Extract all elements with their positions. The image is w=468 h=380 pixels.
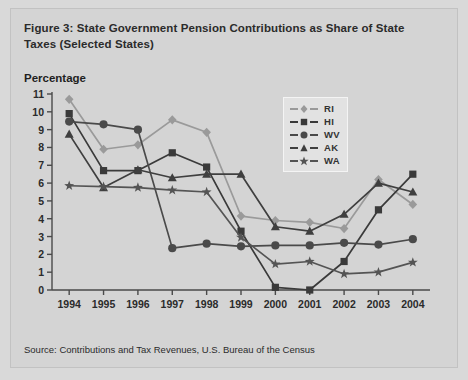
- data-point-square-icon: [203, 163, 210, 170]
- data-point-triangle-icon: [65, 129, 74, 137]
- data-point-circle-icon: [134, 126, 142, 134]
- x-tick-label: 2004: [401, 298, 425, 310]
- data-point-square-icon: [375, 206, 382, 213]
- legend-label-ri: RI: [319, 103, 334, 114]
- chart-legend: RI HI WV AK: [283, 97, 348, 172]
- data-point-star-icon: [64, 181, 74, 190]
- data-point-star-icon: [202, 187, 212, 196]
- legend-item-ak[interactable]: AK: [289, 141, 340, 154]
- y-tick-label: 8: [38, 141, 44, 153]
- series-ri: [65, 95, 417, 233]
- legend-symbol-triangle-icon: [289, 142, 319, 154]
- legend-item-wa[interactable]: WA: [289, 154, 340, 167]
- data-point-star-icon: [133, 182, 143, 191]
- series-line: [69, 99, 413, 228]
- data-point-square-icon: [66, 110, 73, 117]
- legend-item-ri[interactable]: RI: [289, 102, 340, 115]
- y-tick-label: 4: [38, 213, 44, 225]
- x-tick-label: 1995: [92, 298, 116, 310]
- data-point-star-icon: [167, 185, 177, 194]
- y-tick-label: 5: [38, 195, 44, 207]
- source-note: Source: Contributions and Tax Revenues, …: [24, 344, 315, 355]
- figure-container: Figure 3: State Government Pension Contr…: [0, 0, 468, 380]
- figure-title: Figure 3: State Government Pension Contr…: [24, 20, 424, 52]
- x-tick-label: 2003: [367, 298, 391, 310]
- data-point-circle-icon: [65, 118, 73, 126]
- y-axis-label: Percentage: [24, 72, 86, 84]
- data-point-square-icon: [306, 286, 313, 293]
- legend-symbol-star-icon: [289, 155, 319, 167]
- x-tick-label: 1994: [58, 298, 82, 310]
- line-chart-svg: 0123456789101119941995199619971998199920…: [24, 90, 436, 318]
- y-tick-label: 3: [38, 231, 44, 243]
- data-point-diamond-icon: [202, 128, 211, 137]
- data-point-square-icon: [100, 167, 107, 174]
- data-point-diamond-icon: [305, 218, 314, 227]
- data-point-circle-icon: [340, 239, 348, 247]
- data-point-square-icon: [340, 258, 347, 265]
- legend-symbol-square-icon: [289, 116, 319, 128]
- x-tick-label: 2002: [332, 298, 356, 310]
- data-point-star-icon: [305, 256, 315, 265]
- y-tick-label: 7: [38, 159, 44, 171]
- data-point-diamond-icon: [237, 211, 246, 220]
- x-tick-label: 1998: [195, 298, 219, 310]
- data-point-square-icon: [169, 149, 176, 156]
- y-tick-label: 11: [33, 90, 44, 100]
- legend-label-ak: AK: [319, 142, 338, 153]
- legend-label-wv: WV: [319, 129, 340, 140]
- y-tick-label: 0: [38, 284, 44, 296]
- data-point-star-icon: [374, 267, 384, 276]
- x-tick-label: 1999: [229, 298, 253, 310]
- x-tick-label: 1996: [126, 298, 150, 310]
- data-point-square-icon: [272, 284, 279, 291]
- data-point-circle-icon: [99, 120, 107, 128]
- x-tick-label: 2001: [298, 298, 322, 310]
- data-point-star-icon: [270, 259, 280, 268]
- data-point-star-icon: [408, 257, 418, 266]
- data-point-star-icon: [339, 269, 349, 278]
- data-point-circle-icon: [409, 235, 417, 243]
- data-point-circle-icon: [168, 244, 176, 252]
- legend-item-hi[interactable]: HI: [289, 115, 340, 128]
- x-tick-label: 1997: [161, 298, 185, 310]
- y-tick-label: 9: [38, 124, 44, 136]
- legend-item-wv[interactable]: WV: [289, 128, 340, 141]
- data-point-square-icon: [409, 171, 416, 178]
- data-point-circle-icon: [237, 242, 245, 250]
- y-tick-label: 2: [38, 248, 44, 260]
- legend-symbol-circle-icon: [289, 129, 319, 141]
- data-point-circle-icon: [271, 241, 279, 249]
- plot-area: 0123456789101119941995199619971998199920…: [24, 90, 436, 318]
- y-tick-label: 10: [32, 106, 44, 118]
- legend-label-wa: WA: [319, 155, 340, 166]
- data-point-circle-icon: [306, 241, 314, 249]
- series-line: [69, 114, 413, 290]
- y-tick-label: 1: [38, 266, 44, 278]
- legend-symbol-diamond-icon: [289, 103, 319, 115]
- data-point-circle-icon: [203, 240, 211, 248]
- x-tick-label: 2000: [264, 298, 288, 310]
- legend-label-hi: HI: [319, 116, 334, 127]
- data-point-circle-icon: [374, 240, 382, 248]
- y-tick-label: 6: [38, 177, 44, 189]
